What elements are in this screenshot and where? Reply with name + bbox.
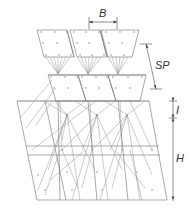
middle-panel-layer — [48, 75, 146, 101]
label-h: H — [176, 152, 184, 164]
structural-diagram: B SP — [0, 0, 194, 218]
bottom-cross-ties — [20, 80, 153, 200]
dimension-b: B — [89, 7, 117, 29]
top-panel-layer — [37, 30, 139, 57]
label-b: B — [99, 7, 106, 19]
dimension-i-h: I H — [169, 98, 184, 202]
label-sp: SP — [155, 59, 170, 71]
label-i: I — [176, 104, 179, 116]
top-to-middle-ties — [46, 57, 128, 74]
